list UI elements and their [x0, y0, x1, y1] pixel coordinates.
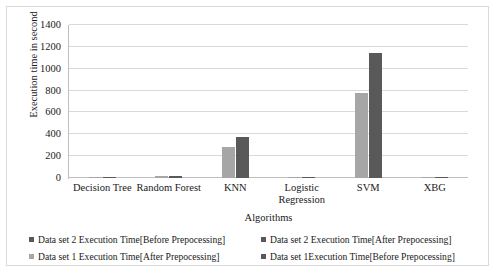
legend-label: Data set 1 Execution Time[After Prepoces…	[38, 252, 219, 262]
y-axis-tick-label: 400	[45, 129, 61, 140]
y-axis-tick-labels: 0200400600800100012001400	[21, 25, 65, 178]
bar	[222, 147, 235, 178]
y-axis-tick-label: 200	[45, 151, 61, 162]
chart-legend: Data set 2 Execution Time[Before Prepoce…	[29, 231, 481, 265]
bar-group	[202, 25, 269, 178]
bar	[369, 53, 382, 178]
legend-label: Data set 1Execution Time[Before Prepoces…	[270, 252, 455, 262]
plot-area	[69, 25, 468, 178]
legend-swatch-icon	[29, 237, 34, 242]
x-axis-tick-label: LogisticRegression	[269, 182, 336, 206]
y-axis-tick-label: 600	[45, 107, 61, 118]
bar	[236, 137, 249, 178]
y-axis-tick-label: 0	[56, 173, 61, 184]
bar-group	[69, 25, 136, 178]
bar	[288, 177, 301, 178]
x-axis-tick-label: Decision Tree	[69, 182, 136, 206]
bar-group	[335, 25, 402, 178]
legend-swatch-icon	[261, 237, 266, 242]
legend-swatch-icon	[261, 254, 266, 259]
y-axis-tick-label: 1000	[40, 63, 61, 74]
bar	[302, 177, 315, 178]
bar	[89, 177, 102, 178]
legend-item[interactable]: Data set 1Execution Time[Before Prepoces…	[261, 252, 481, 262]
bar-group	[402, 25, 469, 178]
legend-swatch-icon	[29, 254, 34, 259]
bar-group	[136, 25, 203, 178]
chart-figure: Execution time in second 020040060080010…	[0, 0, 495, 272]
bar	[103, 177, 116, 178]
y-axis-tick-label: 1200	[40, 42, 61, 53]
bar	[435, 177, 448, 178]
x-axis-tick-label: Random Forest	[136, 182, 203, 206]
y-axis-tick-label: 1400	[40, 20, 61, 31]
bar	[155, 176, 168, 178]
legend-label: Data set 2 Execution Time[After Prepoces…	[270, 235, 451, 245]
legend-item[interactable]: Data set 2 Execution Time[After Prepoces…	[261, 235, 481, 245]
legend-label: Data set 2 Execution Time[Before Prepoce…	[38, 235, 225, 245]
x-axis-tick-label: KNN	[202, 182, 269, 206]
y-axis-tick-label: 800	[45, 85, 61, 96]
x-axis-title: Algorithms	[69, 212, 468, 223]
x-axis-tick-label: XBG	[402, 182, 469, 206]
legend-item[interactable]: Data set 1 Execution Time[After Prepoces…	[29, 252, 261, 262]
bar	[169, 176, 182, 178]
x-axis-tick-label: SVM	[335, 182, 402, 206]
bar	[421, 177, 434, 178]
legend-item[interactable]: Data set 2 Execution Time[Before Prepoce…	[29, 235, 261, 245]
chart-frame: Execution time in second 020040060080010…	[6, 6, 489, 266]
bars-layer	[69, 25, 468, 178]
x-axis-tick-labels: Decision TreeRandom ForestKNNLogisticReg…	[69, 182, 468, 206]
bar	[355, 93, 368, 178]
bar-group	[269, 25, 336, 178]
